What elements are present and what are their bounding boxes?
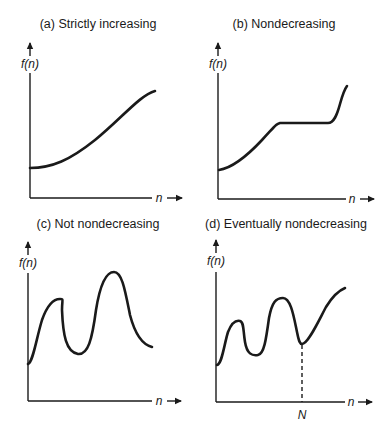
panel-a: (a) Strictly increasing f(n) n — [21, 17, 182, 205]
curve-eventually-nondecreasing — [217, 288, 345, 365]
y-axis-label: f(n) — [19, 256, 37, 270]
curve-nondecreasing — [219, 86, 347, 170]
panel-b-title: (b) Nondecreasing — [233, 17, 336, 31]
panel-a-title: (a) Strictly increasing — [40, 17, 157, 31]
panel-c-title: (c) Not nondecreasing — [37, 217, 160, 231]
curve-not-nondecreasing — [28, 272, 152, 364]
y-axis-label: f(n) — [207, 254, 225, 268]
function-types-diagram: (a) Strictly increasing f(n) n (b) Nonde… — [0, 0, 391, 428]
panel-d: (d) Eventually nondecreasing f(n) n N — [205, 217, 372, 422]
x-axis-label: n — [348, 395, 355, 409]
x-axis-label: n — [156, 394, 163, 408]
curve-strictly-increasing — [30, 91, 155, 168]
panel-d-title: (d) Eventually nondecreasing — [205, 217, 367, 231]
x-axis-label: n — [349, 192, 356, 206]
y-axis-label: f(n) — [21, 57, 39, 71]
y-axis-label: f(n) — [209, 57, 227, 71]
panel-b: (b) Nondecreasing f(n) n — [209, 17, 374, 206]
panel-c: (c) Not nondecreasing f(n) n — [19, 217, 181, 408]
n-marker-label: N — [298, 408, 307, 422]
x-axis-label: n — [156, 191, 163, 205]
